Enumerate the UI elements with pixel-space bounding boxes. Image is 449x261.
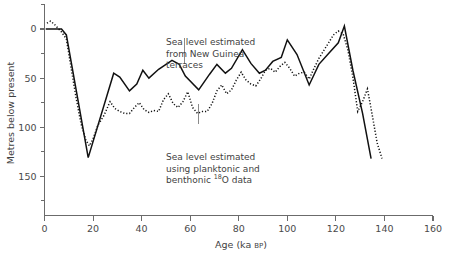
chart-figure: 050100150 020406080100120140160 Sea leve…: [0, 0, 449, 261]
x-tick-label: 100: [278, 223, 296, 234]
y-axis-tick-labels: 050100150: [18, 23, 36, 181]
x-axis-title: Age (ka BP): [215, 239, 267, 250]
x-tick-label: 0: [41, 223, 47, 234]
x-tick-label: 80: [233, 223, 245, 234]
x-tick-label: 20: [87, 223, 99, 234]
y-tick-label: 50: [24, 73, 36, 84]
annotation-text-isotope: Sea level estimated using planktonic and…: [166, 152, 263, 185]
x-axis-ticks: [45, 216, 434, 221]
annotation-isotope: Sea level estimated using planktonic and…: [166, 104, 263, 185]
x-tick-label: 60: [184, 223, 196, 234]
y-axis-title: Metres below present: [5, 61, 16, 164]
sea-level-line-chart: 050100150 020406080100120140160 Sea leve…: [0, 0, 449, 261]
annotation-text-terraces: Sea level estimated from New Guinea terr…: [166, 37, 258, 70]
x-tick-label: 160: [424, 223, 442, 234]
y-tick-label: 0: [30, 23, 36, 34]
y-tick-label: 100: [18, 122, 36, 133]
x-tick-label: 40: [136, 223, 148, 234]
y-axis-ticks: [40, 5, 45, 201]
y-tick-label: 150: [18, 171, 36, 182]
annotation-terraces: Sea level estimated from New Guinea terr…: [166, 37, 258, 70]
x-tick-label: 140: [375, 223, 393, 234]
x-axis-tick-labels: 020406080100120140160: [41, 223, 442, 234]
x-tick-label: 120: [327, 223, 345, 234]
